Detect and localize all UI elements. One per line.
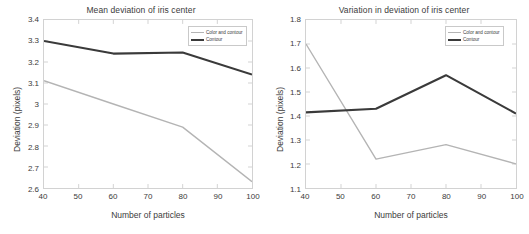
y-tick-label: 1.8 bbox=[280, 15, 301, 24]
figure-container: Mean deviation of iris center Deviation … bbox=[0, 0, 529, 234]
legend-label: Color and contour bbox=[463, 29, 500, 36]
chart-panel-left: Mean deviation of iris center Deviation … bbox=[0, 0, 264, 234]
x-tick-label: 60 bbox=[371, 192, 380, 201]
y-tick-label: 1.2 bbox=[280, 160, 301, 169]
y-tick-label: 3.2 bbox=[18, 57, 39, 66]
legend-item-contour[interactable]: Contour bbox=[191, 36, 243, 43]
y-tick-label: 2.8 bbox=[18, 142, 39, 151]
series-line-contour bbox=[44, 41, 252, 75]
chart-panel-right: Variation in deviation of iris center De… bbox=[265, 0, 529, 234]
chart-title-left: Mean deviation of iris center bbox=[0, 5, 264, 15]
legend-item-contour[interactable]: Contour bbox=[448, 36, 500, 43]
y-tick-label: 2.9 bbox=[18, 121, 39, 130]
x-axis-label-right: Number of particles bbox=[305, 210, 517, 220]
x-tick-label: 50 bbox=[336, 192, 345, 201]
x-tick-label: 90 bbox=[214, 192, 223, 201]
y-tick-label: 1.4 bbox=[280, 112, 301, 121]
series-line-contour bbox=[306, 75, 516, 113]
legend-swatch-icon bbox=[191, 39, 204, 41]
legend-item-color-and-contour[interactable]: Color and contour bbox=[448, 29, 500, 36]
legend-label: Contour bbox=[463, 36, 479, 43]
legend-left[interactable]: Color and contour Contour bbox=[188, 26, 247, 46]
y-tick-label: 3.4 bbox=[18, 15, 39, 24]
x-tick-label: 100 bbox=[510, 192, 523, 201]
x-tick-label: 90 bbox=[477, 192, 486, 201]
chart-title-right: Variation in deviation of iris center bbox=[265, 5, 529, 15]
series-line-color-and-contour bbox=[306, 44, 516, 164]
x-axis-label-left: Number of particles bbox=[43, 210, 253, 220]
x-tick-label: 80 bbox=[442, 192, 451, 201]
series-line-color-and-contour bbox=[44, 81, 252, 182]
legend-item-color-and-contour[interactable]: Color and contour bbox=[191, 29, 243, 36]
x-tick-label: 70 bbox=[407, 192, 416, 201]
legend-swatch-icon bbox=[448, 39, 461, 41]
legend-right[interactable]: Color and contour Contour bbox=[445, 26, 504, 46]
y-tick-label: 3 bbox=[18, 100, 39, 109]
y-tick-label: 1.7 bbox=[280, 39, 301, 48]
y-tick-label: 1.1 bbox=[280, 185, 301, 194]
y-tick-label: 1.6 bbox=[280, 63, 301, 72]
x-tick-label: 50 bbox=[74, 192, 83, 201]
y-tick-label: 3.1 bbox=[18, 78, 39, 87]
legend-label: Color and contour bbox=[206, 29, 243, 36]
x-tick-label: 40 bbox=[39, 192, 48, 201]
y-tick-marks bbox=[44, 41, 252, 167]
y-tick-label: 1.3 bbox=[280, 136, 301, 145]
x-tick-label: 60 bbox=[109, 192, 118, 201]
x-tick-label: 40 bbox=[301, 192, 310, 201]
y-tick-label: 2.6 bbox=[18, 185, 39, 194]
x-tick-label: 80 bbox=[179, 192, 188, 201]
y-tick-label: 2.7 bbox=[18, 163, 39, 172]
y-tick-marks bbox=[306, 44, 516, 164]
x-tick-label: 100 bbox=[246, 192, 259, 201]
legend-swatch-icon bbox=[448, 32, 461, 33]
legend-label: Contour bbox=[206, 36, 222, 43]
x-tick-label: 70 bbox=[144, 192, 153, 201]
y-tick-label: 3.3 bbox=[18, 36, 39, 45]
y-tick-label: 1.5 bbox=[280, 87, 301, 96]
legend-swatch-icon bbox=[191, 32, 204, 33]
